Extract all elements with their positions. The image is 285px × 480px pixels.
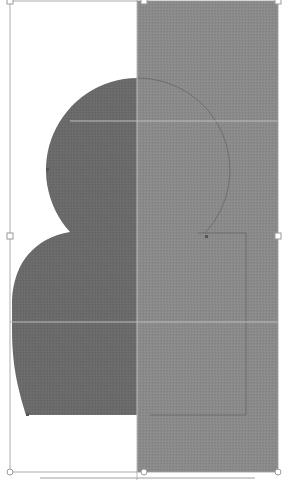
handle-bottom-left[interactable] xyxy=(7,469,13,475)
anchor-node xyxy=(205,235,208,238)
handle-top-left[interactable] xyxy=(7,0,13,4)
handle-top-right[interactable] xyxy=(275,0,281,4)
handle-middle-left[interactable] xyxy=(7,233,13,239)
anchor-node xyxy=(46,168,49,171)
handle-middle-right[interactable] xyxy=(275,233,281,239)
handle-bottom-middle[interactable] xyxy=(141,469,147,475)
anchor-node xyxy=(26,413,29,416)
drawing-canvas[interactable] xyxy=(0,0,285,480)
handle-top-middle[interactable] xyxy=(141,0,147,4)
silhouette-shape[interactable] xyxy=(12,78,137,415)
handle-bottom-right[interactable] xyxy=(275,469,281,475)
